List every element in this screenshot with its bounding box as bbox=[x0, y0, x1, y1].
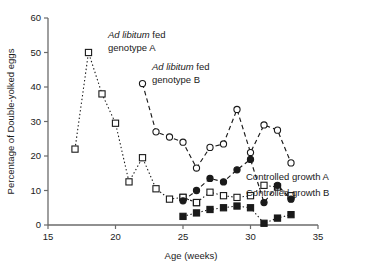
y-tick-label-30: 30 bbox=[30, 116, 41, 127]
y-tick-label-40: 40 bbox=[30, 81, 41, 92]
x-axis-title: Age (weeks) bbox=[165, 250, 218, 261]
x-tick-label-25: 25 bbox=[178, 231, 189, 242]
data-point-0-4 bbox=[126, 179, 132, 185]
series-line-1 bbox=[143, 84, 292, 169]
data-point-3-3 bbox=[220, 205, 226, 211]
y-tick-label-10: 10 bbox=[30, 185, 41, 196]
data-point-3-2 bbox=[207, 206, 213, 212]
chart-container: 0102030405060 1520253035 Percentage of D… bbox=[0, 0, 369, 274]
data-point-4-0 bbox=[180, 198, 186, 204]
annotation-a-line2: genotype A bbox=[108, 42, 156, 53]
series-ad-libitum-fed-genotype-a bbox=[72, 49, 200, 205]
data-point-3-5 bbox=[247, 205, 253, 211]
data-point-0-2 bbox=[99, 91, 105, 97]
y-tick-label-60: 60 bbox=[30, 12, 41, 23]
data-point-1-1 bbox=[153, 129, 159, 135]
data-point-3-6 bbox=[261, 220, 267, 226]
x-axis-ticks: 1520253035 bbox=[43, 225, 324, 242]
data-point-1-2 bbox=[166, 134, 172, 140]
data-point-3-7 bbox=[274, 215, 280, 221]
data-point-3-8 bbox=[288, 212, 294, 218]
annotation-ad-libitum-genotype-a: Ad libitum fed genotype A bbox=[107, 29, 166, 53]
y-axis-ticks: 0102030405060 bbox=[30, 12, 48, 230]
data-point-1-8 bbox=[247, 149, 253, 155]
y-tick-label-0: 0 bbox=[36, 219, 41, 230]
annotation-b-line1: Ad libitum fed bbox=[151, 61, 210, 72]
data-point-3-1 bbox=[193, 210, 199, 216]
data-point-2-2 bbox=[207, 189, 213, 195]
data-point-2-1 bbox=[193, 199, 199, 205]
data-point-4-2 bbox=[207, 175, 213, 181]
x-tick-label-15: 15 bbox=[43, 231, 54, 242]
data-point-0-6 bbox=[153, 186, 159, 192]
annotation-a-line1: Ad libitum fed bbox=[107, 29, 166, 40]
double-yolked-eggs-line-chart: 0102030405060 1520253035 Percentage of D… bbox=[0, 0, 369, 274]
data-point-0-7 bbox=[166, 196, 172, 202]
data-point-1-7 bbox=[234, 106, 240, 112]
x-tick-label-35: 35 bbox=[313, 231, 324, 242]
data-point-3-0 bbox=[180, 213, 186, 219]
data-point-1-3 bbox=[180, 139, 186, 145]
data-point-1-11 bbox=[288, 160, 294, 166]
data-point-4-3 bbox=[220, 179, 226, 185]
legend-label-2: Controlled growth B bbox=[246, 187, 329, 198]
series-ad-libitum-fed-genotype-b bbox=[139, 80, 294, 171]
annotation-ad-libitum-genotype-b: Ad libitum fed genotype B bbox=[151, 61, 210, 85]
series-controlled-growth-b bbox=[180, 203, 294, 226]
y-tick-label-50: 50 bbox=[30, 47, 41, 58]
x-tick-label-30: 30 bbox=[245, 231, 256, 242]
y-axis-title: Percentage of Double-yolked eggs bbox=[5, 48, 16, 194]
data-point-2-3 bbox=[220, 193, 226, 199]
data-point-3-4 bbox=[234, 203, 240, 209]
data-point-4-1 bbox=[193, 187, 199, 193]
data-point-1-5 bbox=[207, 144, 213, 150]
data-point-4-6 bbox=[261, 199, 267, 205]
data-point-0-0 bbox=[72, 146, 78, 152]
data-point-1-0 bbox=[139, 80, 145, 86]
data-point-0-5 bbox=[139, 155, 145, 161]
data-point-1-10 bbox=[274, 127, 280, 133]
x-tick-label-20: 20 bbox=[110, 231, 121, 242]
legend-label-1: Controlled growth A bbox=[246, 171, 330, 182]
data-point-1-4 bbox=[193, 165, 199, 171]
data-point-2-4 bbox=[234, 194, 240, 200]
data-point-0-3 bbox=[112, 120, 118, 126]
annotation-b-line2: genotype B bbox=[152, 74, 200, 85]
data-point-4-5 bbox=[247, 156, 253, 162]
data-point-4-4 bbox=[234, 167, 240, 173]
y-tick-label-20: 20 bbox=[30, 150, 41, 161]
data-point-1-6 bbox=[220, 141, 226, 147]
data-point-0-1 bbox=[85, 49, 91, 55]
data-point-1-9 bbox=[261, 122, 267, 128]
